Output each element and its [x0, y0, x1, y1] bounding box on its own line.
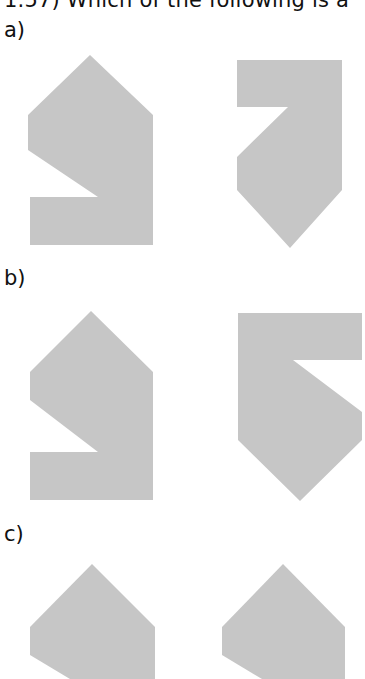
option-c-right-shape: [222, 564, 345, 679]
option-b-right-shape: [238, 313, 362, 501]
option-a-figures: [28, 55, 342, 248]
option-c-left-shape: [30, 564, 155, 679]
option-b-left-shape: [30, 311, 153, 500]
option-a-right-shape: [237, 60, 342, 248]
option-figures: [0, 0, 365, 679]
option-c-figures: [30, 564, 345, 679]
option-a-left-shape: [28, 55, 153, 245]
option-b-figures: [30, 311, 362, 501]
